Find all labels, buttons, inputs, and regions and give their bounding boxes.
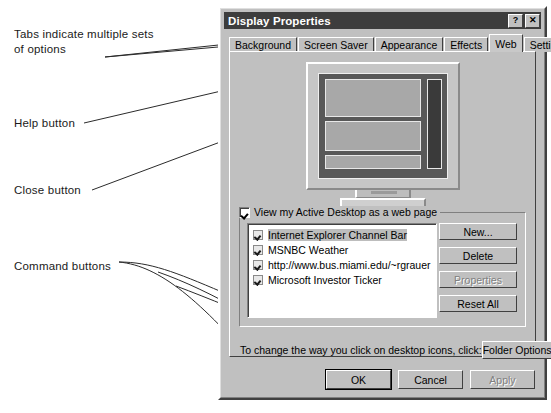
reset-all-button[interactable]: Reset All [439,295,517,312]
tab-strip: Background Screen Saver Appearance Effec… [229,35,536,52]
delete-button[interactable]: Delete [439,247,517,264]
tab-settings[interactable]: Settings [524,37,551,52]
web-items-listbox[interactable]: Internet Explorer Channel Bar MSNBC Weat… [247,223,437,318]
list-item-label: MSNBC Weather [268,244,348,256]
web-tab-panel: View my Active Desktop as a web page Int… [229,51,536,357]
tab-screen-saver[interactable]: Screen Saver [298,37,374,52]
annotation-tabs: Tabs indicate multiple sets of options [14,27,204,57]
dialog-action-buttons: OK Cancel Apply [326,370,535,389]
folder-options-row: To change the way you click on desktop i… [240,340,526,360]
tab-background[interactable]: Background [229,37,297,52]
tab-appearance[interactable]: Appearance [375,37,444,52]
properties-button: Properties [439,271,517,288]
annotation-help-button: Help button [14,116,75,131]
checkbox-icon[interactable] [239,207,250,218]
list-item-label: http://www.bus.miami.edu/~rgrauer [268,259,431,271]
checkbox-icon[interactable] [253,260,263,270]
list-item[interactable]: MSNBC Weather [250,242,434,257]
preview-region-bottom [325,155,421,169]
folder-options-hint: To change the way you click on desktop i… [240,344,482,356]
checkbox-icon[interactable] [253,275,263,285]
help-icon[interactable]: ? [508,14,523,28]
folder-options-button[interactable]: Folder Options [482,341,551,359]
tab-web[interactable]: Web [489,34,522,52]
list-item-label: Internet Explorer Channel Bar [268,229,407,241]
ok-button[interactable]: OK [326,370,391,389]
screenshot-root: Tabs indicate multiple sets of options H… [0,0,551,413]
active-desktop-checkbox-label: View my Active Desktop as a web page [254,206,437,218]
active-desktop-group: View my Active Desktop as a web page Int… [239,212,526,327]
list-item-label: Microsoft Investor Ticker [268,274,382,286]
monitor-screen [318,73,448,179]
close-icon[interactable]: ✕ [525,14,540,28]
preview-region-middle [325,121,421,151]
tab-effects[interactable]: Effects [444,37,488,52]
dialog-inner-frame: Display Properties ? ✕ Background Screen… [220,8,545,398]
list-item[interactable]: http://www.bus.miami.edu/~rgrauer [250,257,434,272]
monitor-bezel [306,62,460,190]
title-bar: Display Properties ? ✕ [224,12,541,29]
display-properties-dialog: Display Properties ? ✕ Background Screen… [218,6,547,400]
monitor-preview [303,62,463,208]
list-item[interactable]: Internet Explorer Channel Bar [250,227,434,242]
title-bar-buttons: ? ✕ [508,14,541,28]
checkbox-icon[interactable] [253,230,263,240]
annotation-command-buttons: Command buttons [14,259,111,274]
checkbox-icon[interactable] [253,245,263,255]
preview-region-top [325,79,421,117]
list-item[interactable]: Microsoft Investor Ticker [250,272,434,287]
active-desktop-checkbox[interactable]: View my Active Desktop as a web page [239,206,440,218]
new-button[interactable]: New... [439,223,517,240]
preview-channel-bar [427,79,442,169]
web-item-actions: New... Delete Properties Reset All [439,223,517,319]
dialog-title: Display Properties [224,15,331,27]
apply-button: Apply [470,370,535,389]
cancel-button[interactable]: Cancel [398,370,463,389]
annotation-close-button: Close button [14,183,81,198]
monitor-neck [355,190,411,198]
